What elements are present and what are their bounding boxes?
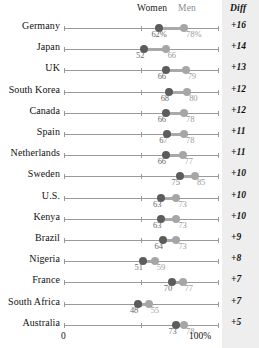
axis-tick: [64, 174, 65, 179]
chart-row: Spain6778+11: [0, 124, 259, 145]
value-label-men: 73: [178, 241, 186, 251]
row-label-country: UK: [45, 62, 60, 73]
diff-value: +11: [231, 126, 245, 136]
row-label-country: Kenya: [33, 211, 60, 222]
row-label-country: Netherlands: [11, 147, 60, 158]
axis-tick: [218, 217, 219, 222]
value-label-women: 73: [168, 326, 176, 336]
axis-tick: [64, 153, 65, 158]
row-label-country: U.S.: [42, 190, 60, 201]
axis-tick: [218, 259, 219, 264]
axis-tick: [64, 132, 65, 137]
legend-label-women: Women: [137, 3, 167, 13]
value-label-men: 73: [178, 199, 186, 209]
value-label-men: 77: [185, 283, 193, 293]
axis-tick: [141, 217, 142, 222]
dot-plot-chart: Women Men Diff Germany62%78%+16Japan5266…: [0, 0, 259, 348]
value-label-women: 66: [158, 156, 166, 166]
axis-tick: [218, 132, 219, 137]
diff-value: +10: [231, 211, 246, 221]
diff-value: +13: [231, 62, 246, 72]
diff-value: +7: [231, 274, 241, 284]
axis-tick: [218, 196, 219, 201]
value-label-women: 68: [161, 93, 169, 103]
axis-tick: [218, 323, 219, 328]
axis-tick: [64, 259, 65, 264]
value-label-men: 80: [189, 93, 197, 103]
value-label-women: 63: [153, 199, 161, 209]
axis-tick: [141, 153, 142, 158]
chart-row: Canada6678+12: [0, 103, 259, 124]
value-label-women: 62%: [151, 29, 166, 39]
row-label-country: Canada: [29, 105, 60, 116]
axis-tick-label-min: 0: [61, 331, 66, 341]
axis-tick: [64, 280, 65, 285]
chart-row: Netherlands6677+11: [0, 145, 259, 166]
chart-row: Japan5266+14: [0, 39, 259, 60]
axis-tick: [218, 68, 219, 73]
value-label-men: 78: [186, 135, 194, 145]
diff-value: +10: [231, 190, 246, 200]
row-label-country: Nigeria: [29, 253, 60, 264]
axis-tick: [64, 302, 65, 307]
chart-row: South Korea6880+12: [0, 82, 259, 103]
axis-tick: [141, 90, 142, 95]
diff-value: +8: [231, 253, 241, 263]
row-label-country: South Africa: [8, 296, 60, 307]
value-label-men: 79: [188, 71, 196, 81]
value-label-women: 52: [136, 50, 144, 60]
axis-tick: [64, 26, 65, 31]
row-label-country: Brazil: [35, 232, 60, 243]
value-label-women: 75: [172, 177, 180, 187]
axis-tick: [141, 132, 142, 137]
row-label-country: Germany: [22, 20, 60, 31]
chart-row: Germany62%78%+16: [0, 18, 259, 39]
value-label-men: 59: [157, 262, 165, 272]
value-label-men: 85: [197, 177, 205, 187]
row-label-country: South Korea: [9, 84, 60, 95]
axis-tick: [64, 47, 65, 52]
axis-tick: [218, 111, 219, 116]
chart-row: South Africa4855+7: [0, 294, 259, 315]
axis-tick: [64, 238, 65, 243]
value-label-women: 48: [130, 305, 138, 315]
chart-row: Brazil6473+9: [0, 230, 259, 251]
axis-tick: [218, 90, 219, 95]
diff-value: +11: [231, 147, 245, 157]
axis-tick: [141, 174, 142, 179]
chart-row: Sweden7585+10: [0, 166, 259, 187]
value-label-women: 64: [155, 241, 163, 251]
axis-tick: [141, 111, 142, 116]
diff-value: +14: [231, 41, 246, 51]
value-label-women: 67: [159, 135, 167, 145]
diff-value: +5: [231, 317, 241, 327]
axis-tick: [141, 323, 142, 328]
value-label-men: 55: [151, 305, 159, 315]
value-label-women: 66: [158, 71, 166, 81]
axis-tick: [218, 280, 219, 285]
diff-value: +9: [231, 232, 241, 242]
axis-tick: [64, 68, 65, 73]
axis-tick: [64, 90, 65, 95]
axis-tick: [141, 196, 142, 201]
axis-tick: [64, 217, 65, 222]
axis-tick: [141, 280, 142, 285]
value-label-women: 63: [153, 220, 161, 230]
row-label-country: Japan: [37, 41, 60, 52]
axis-tick-label-max: 100%: [189, 331, 211, 341]
value-label-men: 78%: [186, 29, 201, 39]
value-label-men: 77: [185, 156, 193, 166]
diff-column-header: Diff: [230, 3, 246, 13]
row-label-country: Australia: [22, 317, 60, 328]
axis-tick: [218, 47, 219, 52]
chart-row: Nigeria5159+8: [0, 251, 259, 272]
axis-tick: [64, 323, 65, 328]
chart-row: U.S.6373+10: [0, 188, 259, 209]
chart-row: France7077+7: [0, 272, 259, 293]
diff-value: +12: [231, 84, 246, 94]
axis-tick: [141, 26, 142, 31]
value-label-women: 51: [135, 262, 143, 272]
axis-tick: [218, 153, 219, 158]
axis-tick: [218, 302, 219, 307]
row-label-country: Spain: [37, 126, 60, 137]
